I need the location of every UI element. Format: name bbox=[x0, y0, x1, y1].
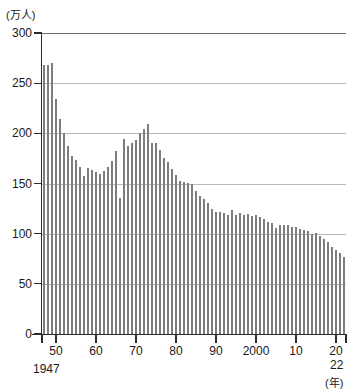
y-tick-label-wrap-250: 250 bbox=[0, 77, 32, 89]
x-tick-label-2020: 20 bbox=[329, 345, 342, 357]
bar bbox=[67, 146, 70, 334]
y-tick-label-wrap-150: 150 bbox=[0, 178, 32, 190]
x-axis-line bbox=[32, 334, 347, 335]
bar bbox=[199, 196, 202, 334]
bar bbox=[99, 174, 102, 334]
x-tick-1990 bbox=[215, 335, 216, 343]
bar bbox=[259, 217, 262, 334]
bar bbox=[151, 143, 154, 334]
bar bbox=[47, 65, 50, 334]
bar bbox=[343, 257, 346, 334]
bar bbox=[235, 215, 238, 334]
y-tick-label-0: 0 bbox=[2, 328, 32, 340]
y-tick-150 bbox=[34, 183, 42, 184]
bar bbox=[331, 247, 334, 334]
bar bbox=[167, 162, 170, 334]
x-tick-label-1960: 60 bbox=[89, 345, 102, 357]
bar bbox=[59, 119, 62, 334]
y-axis-unit-label: (万人) bbox=[6, 6, 35, 22]
y-tick-label-300: 300 bbox=[2, 27, 32, 39]
bar bbox=[119, 198, 122, 334]
bar bbox=[147, 124, 150, 334]
bar bbox=[183, 182, 186, 335]
bar bbox=[311, 234, 314, 334]
bar bbox=[263, 219, 266, 334]
bar bbox=[179, 181, 182, 335]
bar bbox=[283, 225, 286, 334]
bar bbox=[155, 143, 158, 334]
bar bbox=[175, 175, 178, 334]
bar bbox=[43, 65, 46, 334]
bar bbox=[143, 129, 146, 334]
bar bbox=[215, 212, 218, 334]
bar bbox=[223, 213, 226, 334]
y-tick-label-wrap-300: 300 bbox=[0, 27, 32, 39]
bar bbox=[267, 222, 270, 334]
y-tick-label-250: 250 bbox=[2, 77, 32, 89]
x-axis-unit-label: (年) bbox=[325, 374, 343, 390]
y-tick-100 bbox=[34, 233, 42, 234]
gridline-250 bbox=[42, 83, 346, 84]
bar bbox=[319, 236, 322, 334]
birth-count-bar-chart: (万人) 050100150200250300 5060708090200010… bbox=[0, 0, 363, 391]
x-tick-2000 bbox=[255, 335, 256, 343]
bar bbox=[275, 228, 278, 334]
bar bbox=[55, 99, 58, 334]
x-tick-boundary-1947 bbox=[41, 335, 42, 343]
bar bbox=[159, 150, 162, 334]
x-tick-label-1980: 80 bbox=[169, 345, 182, 357]
bar bbox=[191, 184, 194, 335]
y-tick-label-100: 100 bbox=[2, 228, 32, 240]
bar bbox=[187, 183, 190, 335]
bar bbox=[247, 214, 250, 334]
y-tick-300 bbox=[34, 32, 42, 33]
bar bbox=[207, 203, 210, 334]
x-tick-1960 bbox=[95, 335, 96, 343]
x-tick-boundary-2022 bbox=[345, 335, 346, 343]
bar bbox=[87, 168, 90, 334]
bar bbox=[299, 229, 302, 334]
bar bbox=[303, 230, 306, 334]
gridline-200 bbox=[42, 133, 346, 134]
bar bbox=[339, 253, 342, 334]
x-tick-1970 bbox=[135, 335, 136, 343]
bar bbox=[171, 169, 174, 334]
y-tick-label-200: 200 bbox=[2, 127, 32, 139]
bar bbox=[83, 176, 86, 334]
x-tick-label-1990: 90 bbox=[209, 345, 222, 357]
bar bbox=[271, 223, 274, 334]
x-tick-2020 bbox=[335, 335, 336, 343]
bar bbox=[111, 161, 114, 334]
y-tick-label-50: 50 bbox=[2, 278, 32, 290]
bar bbox=[287, 225, 290, 334]
bar bbox=[239, 213, 242, 334]
bar bbox=[279, 225, 282, 334]
y-tick-200 bbox=[34, 133, 42, 134]
x-tick-label-1950: 50 bbox=[49, 345, 62, 357]
x-tick-1950 bbox=[55, 335, 56, 343]
bar bbox=[251, 216, 254, 334]
bar bbox=[163, 158, 166, 334]
bar bbox=[79, 167, 82, 334]
bar bbox=[51, 63, 54, 334]
bar bbox=[135, 140, 138, 334]
bar bbox=[91, 170, 94, 334]
y-tick-label-150: 150 bbox=[2, 178, 32, 190]
x-axis-start-year-label: 1947 bbox=[33, 362, 60, 376]
bar bbox=[295, 227, 298, 334]
bar bbox=[315, 233, 318, 334]
bar bbox=[63, 133, 66, 334]
bar bbox=[131, 143, 134, 334]
bar bbox=[211, 209, 214, 334]
bar bbox=[323, 239, 326, 334]
bar bbox=[75, 160, 78, 334]
x-tick-2010 bbox=[295, 335, 296, 343]
bar bbox=[107, 167, 110, 334]
bar bbox=[335, 250, 338, 334]
bar bbox=[123, 139, 126, 334]
bar bbox=[203, 199, 206, 334]
bar bbox=[139, 133, 142, 334]
x-tick-label-1970: 70 bbox=[129, 345, 142, 357]
bar bbox=[127, 146, 130, 334]
bar bbox=[307, 231, 310, 334]
